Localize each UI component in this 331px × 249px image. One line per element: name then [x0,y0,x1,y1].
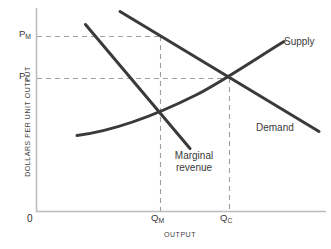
demand-curve [120,12,319,132]
x-tick-label-qc: QC [220,212,232,223]
y-tick-label-pm: PM [19,28,31,39]
x-tick-qc-sub: C [227,217,232,224]
origin-label: 0 [27,213,33,224]
y-tick-pc-sub: C [25,75,30,82]
marginal-revenue-label-line1: Marginal [175,150,213,161]
y-axis-title: DOLLARS PER UNIT OUTPUT [24,47,31,197]
marginal-revenue-curve-label: Marginalrevenue [158,150,230,173]
x-tick-qm-sub: M [158,217,164,224]
supply-curve-label: Supply [284,36,315,47]
demand-curve-label: Demand [256,122,294,133]
x-axis-title: OUTPUT [140,231,220,238]
economics-supply-demand-chart: DOLLARS PER UNIT OUTPUT OUTPUT 0 PM PC Q… [0,0,331,249]
x-tick-label-qm: QM [151,212,164,223]
marginal-revenue-label-line2: revenue [176,162,212,173]
supply-curve [77,42,284,136]
y-tick-label-pc: PC [19,70,30,81]
y-tick-pm-sub: M [25,33,31,40]
